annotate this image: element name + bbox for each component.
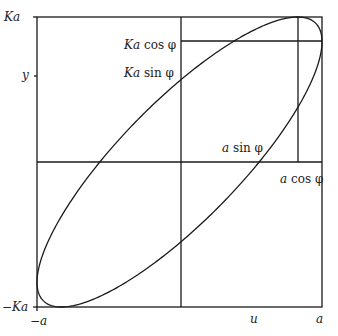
ellipse-diagram: Ka y −Ka −a u a Ka cos φ Ka sin φ a sin …: [0, 0, 338, 336]
label-ka-sin-phi: Ka sin φ: [123, 66, 174, 80]
label-a-cos-phi: a cos φ: [280, 172, 323, 186]
label-a: a: [316, 312, 323, 326]
label-minus-ka: −Ka: [2, 300, 28, 314]
label-ka-cos-phi: Ka cos φ: [123, 38, 176, 52]
label-u: u: [250, 312, 258, 326]
label-minus-a: −a: [30, 314, 47, 328]
label-a-sin-phi: a sin φ: [222, 141, 263, 155]
label-y: y: [21, 68, 29, 82]
label-ka: Ka: [3, 10, 20, 24]
